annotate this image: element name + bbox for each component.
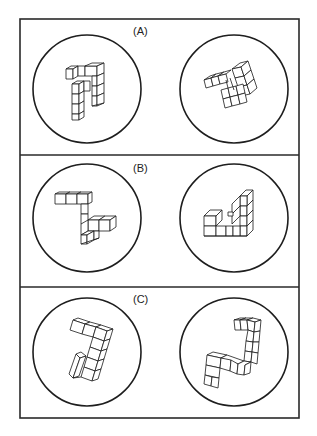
stimulus-circle-c-right (180, 298, 288, 406)
panel-b: (B) (33, 162, 288, 272)
panel-label-b: (B) (133, 162, 148, 174)
panel-c: (C) (33, 293, 288, 406)
panel-a: (A) (33, 25, 288, 143)
panel-label-a: (A) (133, 25, 148, 37)
panel-label-c: (C) (133, 293, 148, 305)
mental-rotation-figure: (A) (0, 0, 317, 436)
stimulus-circle-c-left (33, 298, 141, 406)
